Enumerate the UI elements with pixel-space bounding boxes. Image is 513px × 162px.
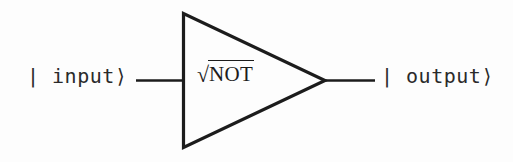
output-ket-label: | output⟩ xyxy=(381,66,494,86)
gate-radicand-label: NOT xyxy=(208,60,254,86)
sqrt-not-gate-figure: | input⟩ √NOT | output⟩ xyxy=(0,0,513,162)
gate-label: √NOT xyxy=(197,64,254,86)
